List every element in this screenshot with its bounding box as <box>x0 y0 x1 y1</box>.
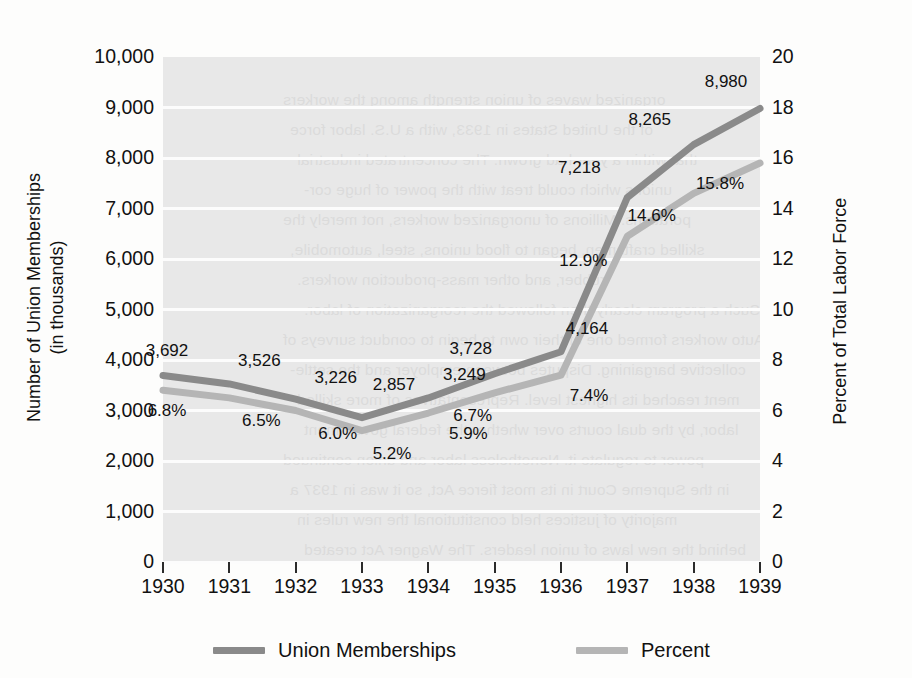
legend-item: Percent <box>576 640 710 660</box>
membership-value-label: 3,226 <box>314 369 357 386</box>
legend-label: Union Memberships <box>278 640 456 660</box>
x-axis-tick <box>427 562 429 573</box>
x-axis-tick-label: 1933 <box>340 577 383 597</box>
legend-swatch-icon <box>576 647 628 654</box>
right-axis-tick-label: 8 <box>772 350 783 370</box>
membership-value-label: 7,218 <box>558 159 601 176</box>
membership-value-label: 3,692 <box>146 342 189 359</box>
x-axis-tick-label: 1930 <box>141 577 184 597</box>
right-axis-tick-label: 12 <box>772 249 794 269</box>
chart-legend: Union MembershipsPercent <box>163 630 760 670</box>
left-axis-tick-label: 6,000 <box>105 249 154 269</box>
membership-value-label: 4,164 <box>566 320 609 337</box>
right-axis-title: Percent of Total Labor Force <box>829 111 852 511</box>
membership-value-label: 3,526 <box>238 352 281 369</box>
x-axis-tick <box>626 562 628 573</box>
x-axis-tick <box>162 562 164 573</box>
left-axis-tick-label: 0 <box>143 552 154 572</box>
series-lines <box>163 57 760 562</box>
x-axis-tick <box>295 562 297 573</box>
left-axis-tick-label: 2,000 <box>105 451 154 471</box>
x-axis-tick-label: 1932 <box>274 577 317 597</box>
x-axis: 1930193119321933193419351936193719381939 <box>163 562 760 608</box>
percent-value-label: 6.7% <box>453 407 492 424</box>
x-axis-tick <box>693 562 695 573</box>
left-axis-tick-label: 8,000 <box>105 148 154 168</box>
left-axis-title-line1: Number of Union Memberships <box>23 98 46 498</box>
plot-area: organized waves of union strength among … <box>163 57 760 562</box>
left-axis: 10,0009,0008,0007,0006,0005,0004,0003,00… <box>62 0 154 678</box>
right-axis-tick-label: 18 <box>772 98 794 118</box>
percent-value-label: 6.0% <box>318 425 357 442</box>
right-axis-tick-label: 16 <box>772 148 794 168</box>
left-axis-tick-label: 9,000 <box>105 98 154 118</box>
left-axis-tick-label: 1,000 <box>105 502 154 522</box>
percent-value-label: 14.6% <box>628 207 676 224</box>
percent-value-label: 5.9% <box>449 425 488 442</box>
percent-value-label: 7.4% <box>570 387 609 404</box>
legend-label: Percent <box>641 640 710 660</box>
x-axis-tick <box>361 562 363 573</box>
chart-page: 10,0009,0008,0007,0006,0005,0004,0003,00… <box>0 0 912 678</box>
percent-value-label: 6.8% <box>148 402 187 419</box>
membership-value-label: 2,857 <box>373 376 416 393</box>
percent-value-label: 5.2% <box>373 445 412 462</box>
x-axis-tick-label: 1939 <box>738 577 781 597</box>
right-axis-tick-label: 0 <box>772 552 783 572</box>
x-axis-tick <box>494 562 496 573</box>
x-axis-tick-label: 1931 <box>208 577 251 597</box>
percent-value-label: 6.5% <box>242 412 281 429</box>
x-axis-tick-label: 1937 <box>606 577 649 597</box>
x-axis-tick-label: 1934 <box>407 577 450 597</box>
legend-item: Union Memberships <box>213 640 456 660</box>
right-axis-tick-label: 10 <box>772 300 794 320</box>
x-axis-tick <box>759 562 761 573</box>
x-axis-tick-label: 1935 <box>473 577 516 597</box>
x-axis-tick <box>560 562 562 573</box>
right-axis-tick-label: 20 <box>772 47 794 67</box>
x-axis-tick-label: 1938 <box>672 577 715 597</box>
legend-swatch-icon <box>213 647 265 654</box>
left-axis-tick-label: 10,000 <box>94 47 154 67</box>
left-axis-tick-label: 7,000 <box>105 199 154 219</box>
left-axis-tick-label: 5,000 <box>105 300 154 320</box>
percent-value-label: 12.9% <box>559 252 607 269</box>
membership-value-label: 3,249 <box>443 366 486 383</box>
left-axis-title-line2: (in thousands) <box>45 98 68 498</box>
membership-value-label: 8,980 <box>705 73 748 90</box>
right-axis-tick-label: 14 <box>772 199 794 219</box>
right-axis-tick-label: 4 <box>772 451 783 471</box>
right-axis-tick-label: 2 <box>772 502 783 522</box>
membership-value-label: 3,728 <box>449 340 492 357</box>
percent-value-label: 15.8% <box>696 175 744 192</box>
membership-value-label: 8,265 <box>628 111 671 128</box>
x-axis-tick <box>228 562 230 573</box>
left-axis-title: Number of Union Memberships (in thousand… <box>23 98 68 498</box>
x-axis-tick-label: 1936 <box>539 577 582 597</box>
right-axis-tick-label: 6 <box>772 401 783 421</box>
